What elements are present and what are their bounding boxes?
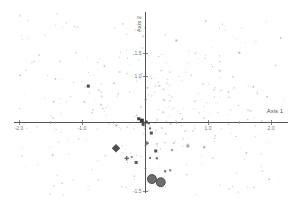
cloud-point [52, 154, 54, 156]
cloud-point [154, 123, 155, 124]
cloud-point [59, 61, 61, 63]
cloud-point [202, 84, 204, 86]
cloud-point [155, 129, 157, 131]
cloud-point [219, 184, 221, 186]
cloud-point [236, 172, 238, 174]
cloud-point [142, 35, 144, 37]
cloud-point [122, 152, 124, 154]
cloud-point [219, 55, 220, 56]
cloud-point [148, 190, 150, 192]
cloud-point [20, 75, 22, 77]
cloud-point [212, 66, 213, 67]
data-point-square [171, 149, 173, 151]
cloud-point [257, 92, 258, 93]
data-point-square [203, 146, 205, 148]
highlight-point [147, 175, 156, 184]
cloud-point [68, 153, 70, 155]
cloud-point [214, 141, 215, 142]
cloud-point [192, 130, 194, 132]
cloud-point [50, 147, 51, 148]
background-points-layer [19, 13, 284, 195]
data-point-square [135, 161, 138, 164]
cloud-point [204, 117, 206, 119]
cloud-point [182, 118, 184, 120]
cloud-point [165, 186, 167, 188]
cloud-point [186, 174, 188, 176]
cloud-point [92, 109, 93, 110]
cloud-point [81, 81, 82, 82]
x-axis-label: Axis 1 [267, 108, 284, 114]
cloud-point [219, 28, 220, 29]
cloud-point [275, 65, 277, 67]
cloud-point [97, 62, 98, 63]
cloud-point [161, 54, 162, 55]
cloud-point [100, 104, 102, 106]
cloud-point [22, 156, 24, 158]
cloud-point [215, 135, 217, 137]
cloud-point [115, 28, 116, 29]
cloud-point [248, 85, 250, 87]
cloud-point [158, 82, 160, 84]
cloud-point [262, 171, 264, 173]
cloud-point [97, 129, 98, 130]
cloud-point [148, 55, 150, 57]
cloud-point [63, 194, 65, 196]
cloud-point [156, 119, 158, 121]
cloud-point [193, 109, 194, 110]
cloud-point [198, 93, 199, 94]
cloud-point [214, 97, 215, 98]
cloud-point [231, 109, 232, 110]
cloud-point [182, 146, 183, 147]
x-tick-label: 1.0 [205, 125, 212, 131]
cloud-point [104, 65, 106, 67]
cloud-point [178, 76, 179, 77]
cloud-point [127, 127, 129, 129]
cloud-point [124, 149, 125, 150]
cloud-point [86, 139, 87, 140]
cloud-point [127, 58, 128, 59]
cloud-point [169, 116, 170, 117]
data-point-square [148, 122, 150, 124]
cloud-point [19, 108, 20, 109]
cloud-point [218, 112, 219, 113]
cloud-point [135, 125, 136, 126]
cloud-point [196, 100, 197, 101]
data-point-square [154, 149, 157, 152]
cloud-point [170, 123, 172, 125]
cloud-point [148, 94, 150, 96]
cloud-point [88, 189, 89, 190]
cloud-point [43, 187, 44, 188]
cloud-point [134, 176, 136, 178]
cloud-point [75, 178, 76, 179]
cloud-point [261, 166, 262, 167]
cloud-point [53, 101, 55, 103]
cloud-point [205, 20, 207, 22]
x-tick-label: -2.0 [15, 125, 24, 131]
cloud-point [214, 138, 216, 140]
cloud-point [167, 79, 168, 80]
cloud-point [147, 87, 149, 89]
cloud-point [126, 50, 127, 51]
cloud-point [165, 133, 166, 134]
cloud-point [163, 131, 164, 132]
cloud-point [255, 125, 257, 127]
cloud-point [257, 93, 259, 95]
cloud-point [228, 97, 230, 99]
cloud-point [266, 21, 267, 22]
cloud-point [262, 89, 263, 90]
cloud-point [143, 134, 145, 136]
cloud-point [52, 117, 54, 119]
cloud-point [184, 130, 186, 132]
cloud-point [66, 101, 67, 102]
cloud-point [39, 54, 41, 56]
cloud-point [91, 112, 93, 114]
cloud-point [219, 91, 220, 92]
highlight-point [156, 178, 165, 187]
cloud-point [163, 163, 164, 164]
cloud-point [164, 142, 166, 144]
cloud-point [164, 100, 166, 102]
cloud-point [240, 147, 241, 148]
y-tick-label: 1.5 [135, 50, 142, 56]
cloud-point [211, 64, 212, 65]
cloud-point [88, 186, 89, 187]
